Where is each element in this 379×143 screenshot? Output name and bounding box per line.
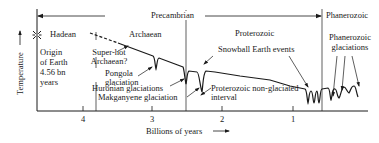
origin-label-line3: 4.56 bn	[40, 68, 66, 77]
makganyene-leader	[187, 88, 199, 97]
huronian-leader	[170, 79, 184, 86]
precambrian-label: Precambrian	[149, 11, 196, 20]
origin-label-line1: Origin	[40, 48, 62, 57]
x-axis-title: Billions of years	[146, 127, 202, 136]
phanerozoic-eon-label: Phanerozoic	[326, 11, 368, 20]
origin-label-line2: of Earth	[40, 58, 68, 67]
x-tick-label-2: 2	[217, 115, 227, 124]
hadean-label: Hadean	[50, 30, 76, 39]
x-tick-label-3: 3	[147, 115, 157, 124]
makganyene-label: Makganyene glaciation	[98, 93, 178, 102]
superhot-label-line2: Archaean?	[80, 57, 138, 66]
phanerozoic-glaciations-label-line2: glaciations	[322, 43, 378, 52]
proterozoic-label: Proterozoic	[235, 29, 274, 38]
temperature-curve-dashed	[90, 33, 118, 43]
phan-glac-leader-2	[342, 56, 345, 90]
x-tick-label-4: 4	[78, 115, 88, 124]
archaean-label: Archaean	[129, 30, 162, 39]
pongola-leader	[138, 67, 152, 76]
nonglaciated-label-line2: interval	[211, 93, 237, 102]
y-axis-title: Temperature	[15, 52, 25, 95]
origin-label-line4: years	[40, 78, 58, 87]
snowball-leader-left	[204, 56, 213, 64]
x-tick-label-1: 1	[288, 115, 298, 124]
phan-glac-leader-3	[352, 56, 359, 86]
phanerozoic-glaciations-label-line1: Phanerozoic	[322, 33, 378, 42]
snowball-label: Snowball Earth events	[218, 45, 294, 54]
